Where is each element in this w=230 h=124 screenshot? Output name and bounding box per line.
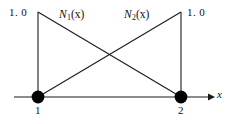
node-marker-1 [32,91,45,104]
left-value-label: 1. 0 [9,7,27,18]
right-value-label: 1. 0 [187,7,205,18]
shape-function-2-label: N2(x) [124,9,149,22]
node-2-label: 2 [178,105,184,116]
x-axis-arrowhead [208,93,215,100]
shape-function-1-label: N1(x) [59,9,84,22]
node-1-label: 1 [35,105,41,116]
x-axis-label: x [217,89,222,100]
shape-function-1-argument: (x) [71,8,84,20]
shape-function-figure: 1. 0 1. 0 N1(x) N2(x) 1 2 x [0,0,230,124]
node-marker-2 [175,91,188,104]
shape-function-2-argument: (x) [136,8,149,20]
shape-function-1-name: N [59,8,67,20]
shape-function-2-name: N [124,8,132,20]
